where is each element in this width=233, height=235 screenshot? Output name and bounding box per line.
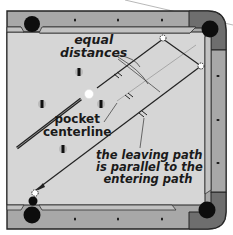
pocket-top-left	[24, 16, 40, 32]
pocket-top-right	[202, 21, 219, 38]
leaving-path-label: the leaving path is parallel to the ente…	[96, 149, 200, 185]
equal-distances-line2: distances	[60, 46, 127, 59]
ghost-ball-top	[160, 35, 166, 41]
striped-ball-3	[97, 100, 105, 108]
pocket-centerline-line1: pocket	[43, 113, 112, 126]
cushion-right-fill	[205, 32, 211, 194]
striped-ball-4	[59, 145, 67, 153]
striped-ball-1	[75, 68, 83, 76]
pocket-centerline-line2: centerline	[43, 126, 112, 139]
pocket-centerline-label: pocket centerline	[43, 113, 112, 138]
ghost-ball-right	[198, 63, 204, 69]
object-ball	[29, 197, 38, 206]
pocket-bottom-right	[199, 202, 216, 219]
equal-distances-label: equal distances	[60, 33, 127, 59]
ghost-ball-bottom-left	[32, 190, 38, 196]
leaving-path-line3: entering path	[96, 173, 200, 185]
right-rail	[211, 50, 226, 192]
pocket-bottom-left	[24, 207, 41, 224]
striped-ball-2	[38, 100, 46, 108]
cue-ball	[85, 90, 94, 99]
